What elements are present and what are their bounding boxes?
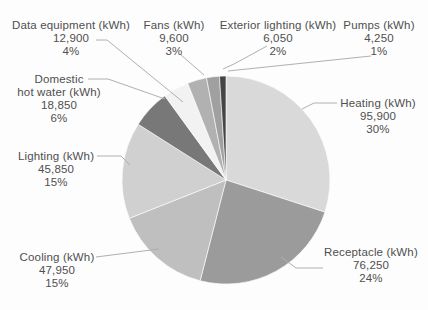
- label-fans-pct: 3%: [144, 45, 205, 58]
- leader-line-pumps: [228, 56, 371, 71]
- leader-line-fans: [181, 55, 204, 75]
- label-domestic-hot-water-name-1: Domestic: [17, 73, 100, 86]
- label-exterior-lighting-pct: 2%: [220, 45, 337, 58]
- label-fans: Fans (kWh) 9,600 3%: [144, 19, 205, 58]
- label-cooling: Cooling (kWh) 47,950 15%: [20, 251, 95, 290]
- energy-pie-chart-figure: Data equipment (kWh) 12,900 4% Fans (kWh…: [0, 0, 428, 310]
- label-pumps-pct: 1%: [343, 45, 414, 58]
- label-data-equipment-pct: 4%: [12, 45, 130, 58]
- label-pumps-value: 4,250: [343, 32, 414, 45]
- label-receptacle: Receptacle (kWh) 76,250 24%: [324, 246, 418, 285]
- leader-line-heating: [302, 103, 337, 109]
- label-data-equipment-value: 12,900: [12, 32, 130, 45]
- label-exterior-lighting: Exterior lighting (kWh) 6,050 2%: [220, 19, 337, 58]
- label-receptacle-value: 76,250: [324, 259, 418, 272]
- label-lighting: Lighting (kWh) 45,850 15%: [18, 150, 94, 189]
- label-exterior-lighting-value: 6,050: [220, 32, 337, 45]
- label-heating-pct: 30%: [340, 123, 415, 136]
- label-exterior-lighting-name: Exterior lighting (kWh): [220, 19, 337, 32]
- label-pumps: Pumps (kWh) 4,250 1%: [343, 19, 414, 58]
- label-cooling-value: 47,950: [20, 264, 95, 277]
- pie-slices: [122, 76, 330, 284]
- label-heating: Heating (kWh) 95,900 30%: [340, 97, 415, 136]
- label-receptacle-name: Receptacle (kWh): [324, 246, 418, 259]
- label-data-equipment: Data equipment (kWh) 12,900 4%: [12, 19, 130, 58]
- label-heating-value: 95,900: [340, 110, 415, 123]
- label-lighting-value: 45,850: [18, 163, 94, 176]
- label-pumps-name: Pumps (kWh): [343, 19, 414, 32]
- label-cooling-pct: 15%: [20, 277, 95, 290]
- label-lighting-pct: 15%: [18, 176, 94, 189]
- label-receptacle-pct: 24%: [324, 272, 418, 285]
- label-data-equipment-name: Data equipment (kWh): [12, 19, 130, 32]
- label-lighting-name: Lighting (kWh): [18, 150, 94, 163]
- leader-line-cooling: [96, 249, 159, 257]
- label-heating-name: Heating (kWh): [340, 97, 415, 110]
- label-fans-name: Fans (kWh): [144, 19, 205, 32]
- label-domestic-hot-water-pct: 6%: [17, 112, 100, 125]
- label-domestic-hot-water-value: 18,850: [17, 99, 100, 112]
- label-cooling-name: Cooling (kWh): [20, 251, 95, 264]
- label-domestic-hot-water-name-2: hot water (kWh): [17, 86, 100, 99]
- label-fans-value: 9,600: [144, 32, 205, 45]
- label-domestic-hot-water: Domestic hot water (kWh) 18,850 6%: [17, 73, 100, 125]
